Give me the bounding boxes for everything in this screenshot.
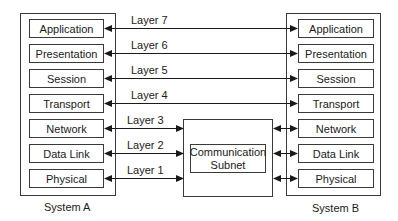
layer-label-7: Layer 7 bbox=[131, 14, 168, 26]
layer-label-5: Layer 5 bbox=[131, 64, 168, 76]
arrows-layer bbox=[0, 0, 398, 221]
layer-label-3: Layer 3 bbox=[127, 114, 164, 126]
layer-label-2: Layer 2 bbox=[127, 139, 164, 151]
layer-label-6: Layer 6 bbox=[131, 39, 168, 51]
layer-label-4: Layer 4 bbox=[131, 89, 168, 101]
layer-label-1: Layer 1 bbox=[127, 164, 164, 176]
